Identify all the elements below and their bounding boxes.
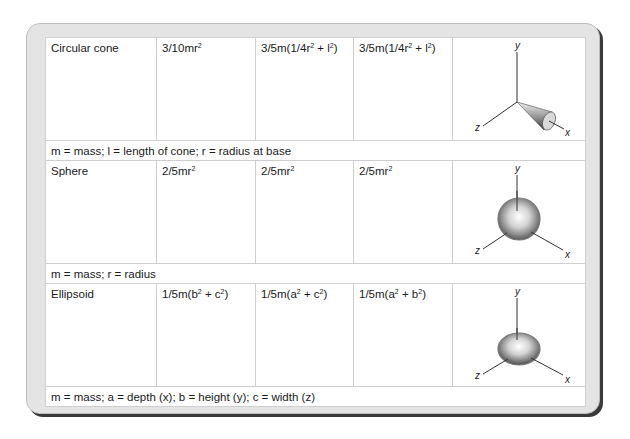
- inertia-x: 1/5m(b2 + c2): [157, 284, 256, 387]
- inertia-y: 3/5m(1/4r2 + l2): [256, 38, 354, 141]
- moment-of-inertia-panel: Circular cone 3/10mr2 3/5m(1/4r2 + l2) 3…: [26, 23, 600, 414]
- table-note-sphere: m = mass; r = radius: [46, 264, 586, 284]
- shape-name: Ellipsoid: [46, 284, 157, 387]
- variable-legend: m = mass; l = length of cone; r = radius…: [46, 141, 586, 161]
- table-row-ellipsoid: Ellipsoid 1/5m(b2 + c2) 1/5m(a2 + c2) 1/…: [46, 284, 586, 387]
- svg-text:x: x: [564, 374, 571, 385]
- inertia-z: 1/5m(a2 + b2): [354, 284, 453, 387]
- cone-figure-cell: y z x: [453, 38, 586, 141]
- variable-legend: m = mass; r = radius: [46, 264, 586, 284]
- svg-text:x: x: [564, 127, 571, 138]
- svg-text:z: z: [474, 122, 480, 133]
- svg-text:x: x: [564, 249, 571, 260]
- inertia-z: 2/5mr2: [354, 161, 453, 264]
- svg-text:y: y: [514, 40, 521, 51]
- shape-name: Circular cone: [46, 38, 157, 141]
- sphere-figure-cell: y z x: [453, 161, 586, 264]
- table-note-cone: m = mass; l = length of cone; r = radius…: [46, 141, 586, 161]
- shape-name: Sphere: [46, 161, 157, 264]
- sphere-on-axes-icon: y z x: [453, 161, 585, 263]
- ellipsoid-figure-cell: y z x: [453, 284, 586, 387]
- svg-text:z: z: [474, 245, 480, 256]
- table-row-cone: Circular cone 3/10mr2 3/5m(1/4r2 + l2) 3…: [46, 38, 586, 141]
- table-note-ellipsoid: m = mass; a = depth (x); b = height (y);…: [46, 387, 586, 407]
- ellipsoid-on-axes-icon: y z x: [453, 284, 585, 386]
- variable-legend: m = mass; a = depth (x); b = height (y);…: [46, 387, 586, 407]
- inertia-y: 2/5mr2: [256, 161, 354, 264]
- svg-text:z: z: [474, 370, 480, 381]
- svg-text:y: y: [514, 286, 521, 297]
- table-row-sphere: Sphere 2/5mr2 2/5mr2 2/5mr2 y: [46, 161, 586, 264]
- inertia-y: 1/5m(a2 + c2): [256, 284, 354, 387]
- inertia-x: 3/10mr2: [157, 38, 256, 141]
- inertia-z: 3/5m(1/4r2 + l2): [354, 38, 453, 141]
- cone-on-axes-icon: y z x: [453, 38, 585, 140]
- inertia-x: 2/5mr2: [157, 161, 256, 264]
- svg-text:y: y: [514, 163, 521, 174]
- moment-of-inertia-table: Circular cone 3/10mr2 3/5m(1/4r2 + l2) 3…: [45, 37, 586, 407]
